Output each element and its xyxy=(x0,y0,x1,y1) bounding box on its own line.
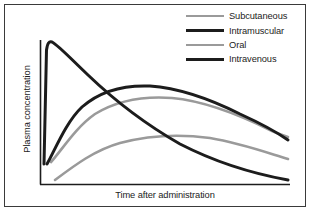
legend-label-intramuscular: Intramuscular xyxy=(229,26,284,36)
legend-label-intravenous: Intravenous xyxy=(229,54,276,64)
legend-line-icon-subcutaneous xyxy=(186,15,224,17)
legend-item-subcutaneous[interactable]: Subcutaneous xyxy=(186,9,306,23)
legend-line-icon-oral xyxy=(186,44,224,46)
legend-item-oral[interactable]: Oral xyxy=(186,38,306,52)
legend-item-intramuscular[interactable]: Intramuscular xyxy=(186,23,306,37)
y-axis-label: Plasma concentration xyxy=(22,44,32,174)
chart-legend: Subcutaneous Intramuscular Oral Intraven… xyxy=(186,9,306,67)
legend-line-icon-intravenous xyxy=(186,58,224,61)
x-axis-label: Time after administration xyxy=(40,190,290,200)
legend-line-icon-intramuscular xyxy=(186,29,224,32)
legend-label-subcutaneous: Subcutaneous xyxy=(229,11,287,21)
legend-item-intravenous[interactable]: Intravenous xyxy=(186,52,306,66)
legend-label-oral: Oral xyxy=(229,40,246,50)
chart-figure: Plasma concentration Time after administ… xyxy=(0,0,311,212)
curve-oral xyxy=(51,98,288,162)
